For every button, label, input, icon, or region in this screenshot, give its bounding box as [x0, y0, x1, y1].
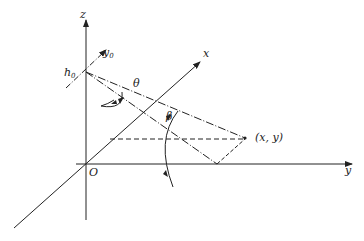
- beta-label: β: [165, 110, 172, 123]
- theta-arc-icon: [101, 92, 124, 107]
- point-label: (x, y): [255, 131, 283, 144]
- x-axis-label: x: [203, 47, 210, 60]
- diagram-canvas: z x y O h0 y0 θ β (x, y): [0, 0, 364, 241]
- h0-label: h0: [64, 66, 76, 80]
- h0-sub: 0: [71, 72, 76, 80]
- y-axis-label: y: [344, 164, 352, 177]
- x-axis: [14, 62, 200, 228]
- origin-label: O: [89, 166, 98, 179]
- z-axis-label: z: [79, 8, 86, 21]
- point-marker: [243, 136, 246, 139]
- theta-label: θ: [133, 77, 140, 90]
- h0-main: h: [64, 66, 71, 79]
- dashed-projection-diagonal: [217, 139, 245, 164]
- y0-label: y0: [102, 46, 114, 60]
- y0-sub: 0: [109, 52, 114, 60]
